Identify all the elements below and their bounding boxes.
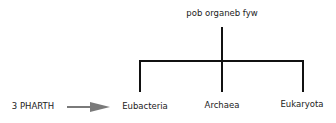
arrow-icon: [0, 0, 336, 123]
